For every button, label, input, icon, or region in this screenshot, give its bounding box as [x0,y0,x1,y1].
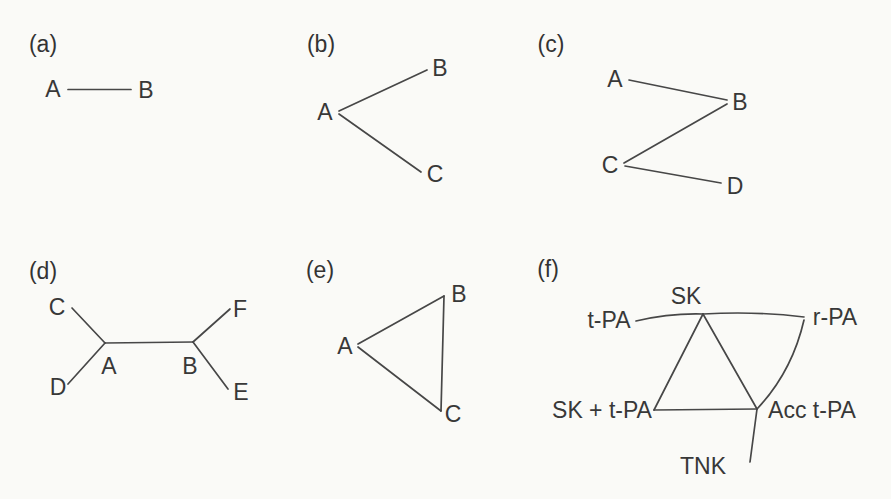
edge-e-C-A [358,347,441,411]
node-label-e-B: B [451,283,466,306]
node-label-f-SK-tPA: SK + t-PA [552,399,652,422]
edge-b-A-B [339,70,427,111]
edge-f-SK-SKtPA [654,314,703,410]
node-label-c-A: A [607,68,622,91]
panel-e-edges [358,296,444,411]
node-label-d-A: A [101,355,116,378]
panel-b-edges [339,70,427,172]
node-label-d-C: C [49,296,66,319]
edge-d-C-A [72,308,105,343]
edge-c-C-D [625,166,721,183]
node-label-d-D: D [50,376,67,399]
edge-e-B-C [441,296,444,411]
edge-b-A-C [339,114,421,172]
edge-c-A-B [629,80,727,100]
panel-tag-f: (f) [537,258,559,281]
node-label-f-Acc-tPA: Acc t-PA [768,399,856,422]
node-label-f-TNK: TNK [680,455,726,478]
edge-f-tPA-SK [636,314,703,321]
node-label-e-A: A [337,335,352,358]
node-label-d-E: E [233,381,248,404]
panel-tag-e: (e) [306,259,334,282]
node-label-c-C: C [602,154,619,177]
node-label-c-D: D [727,175,744,198]
edge-d-B-E [193,342,228,389]
edge-f-SK-AcctPA [703,314,757,409]
panel-tag-c: (c) [538,33,565,56]
edge-d-B-F [193,309,230,342]
edge-f-AcctPA-TNK [750,409,757,462]
panel-f-edges [636,313,804,462]
edge-d-A-B [105,342,193,343]
node-label-c-B: B [732,91,747,114]
panel-d-edges [68,308,230,389]
edge-c-B-C [624,104,727,163]
edge-d-D-A [68,343,105,384]
node-label-d-F: F [233,298,247,321]
node-label-a-B: B [138,79,153,102]
edge-e-A-B [358,296,444,344]
node-label-b-B: B [432,57,447,80]
node-label-d-B: B [182,355,197,378]
node-label-f-tPA: t-PA [587,309,630,332]
edge-f-SK-rPA [703,313,804,317]
edge-f-SKtPA-AcctPA [654,409,757,410]
panel-tag-d: (d) [29,260,57,283]
node-label-f-SK: SK [671,285,702,308]
node-label-f-rPA: r-PA [813,306,857,329]
panel-tag-b: (b) [307,33,335,56]
panel-c-edges [624,80,727,183]
node-label-a-A: A [45,78,60,101]
figure-canvas: (a) A B (b) A B C (c) A B C D (d) C F A … [0,0,891,499]
node-label-b-C: C [427,163,444,186]
panel-tag-a: (a) [29,33,57,56]
node-label-e-C: C [445,403,462,426]
node-label-b-A: A [317,101,332,124]
